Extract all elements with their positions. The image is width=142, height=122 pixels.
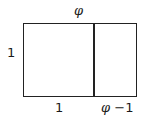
top-width-label: φ [74,4,83,18]
outer-rectangle [23,23,137,97]
left-height-label: 1 [7,46,15,60]
phi-symbol: φ [101,100,110,115]
bottom-square-width-label: 1 [55,101,63,115]
bottom-remainder-width-label: φ −1 [101,101,133,115]
square-divider-line [93,23,95,97]
minus-one-text: −1 [110,100,133,115]
